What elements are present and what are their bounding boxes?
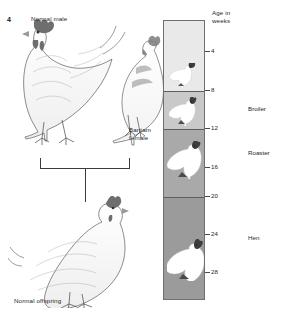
tick-label-8: 8: [211, 86, 214, 93]
tick-label-28: 28: [211, 268, 218, 275]
scale-header: Age in weeks: [212, 9, 230, 24]
poultry-breeding-figure: 4: [0, 0, 284, 311]
chick-silhouette-16wk: [167, 141, 203, 179]
chick-silhouette-28wk: [167, 239, 205, 281]
tick-mark-8: [205, 90, 210, 91]
category-label-hen: Hen: [248, 234, 259, 241]
tick-label-12: 12: [211, 124, 218, 131]
tick-mark-20: [205, 196, 210, 197]
tick-mark-12: [205, 128, 210, 129]
label-bantam-female: Bantam female: [129, 126, 151, 141]
tick-mark-28: [205, 272, 210, 273]
tick-label-20: 20: [211, 192, 218, 199]
tick-mark-24: [205, 234, 210, 235]
chick-silhouette-12wk: [168, 97, 200, 126]
offspring-bird-illustration: [8, 196, 138, 308]
parent-birds-illustration: [4, 16, 164, 164]
label-normal-male: Normal male: [31, 15, 67, 23]
label-normal-offspring: Normal offspring: [14, 297, 61, 305]
tick-label-24: 24: [211, 230, 218, 237]
tick-label-4: 4: [211, 47, 214, 54]
tick-mark-4: [205, 51, 210, 52]
chick-silhouette-8wk: [169, 63, 199, 89]
tick-label-16: 16: [211, 163, 218, 170]
category-label-roaster: Roaster: [248, 149, 270, 156]
category-label-broiler: Broiler: [248, 105, 266, 112]
age-scale-bar: [163, 20, 205, 300]
tick-mark-16: [205, 167, 210, 168]
